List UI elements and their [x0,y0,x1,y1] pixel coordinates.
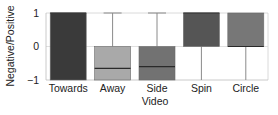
box-iqr [228,13,264,47]
x-axis-label: Video [142,95,169,107]
box-circle [228,13,264,80]
box-iqr [95,47,131,81]
box-plot-chart: −101 TowardsAwaySideSpinCircle Negative/… [0,0,278,115]
y-tick-label: 0 [33,40,39,52]
x-tick-label: Circle [232,82,259,94]
x-tick-label: Towards [49,82,88,94]
x-tick-label: Side [146,82,167,94]
y-tick-label: −1 [27,74,39,86]
y-axis-label: Negative/Positive [4,5,16,86]
y-tick-label: 1 [33,7,39,19]
x-tick-label: Spin [191,82,212,94]
box-iqr [139,47,175,81]
box-series [50,13,264,80]
x-axis: TowardsAwaySideSpinCircle [49,82,260,94]
box-iqr [50,13,86,80]
y-axis: −101 [27,7,39,86]
box-towards [50,13,86,80]
x-tick-label: Away [100,82,126,94]
chart-canvas: −101 TowardsAwaySideSpinCircle Negative/… [0,0,278,115]
box-side [139,13,175,80]
box-away [95,13,131,80]
box-iqr [183,13,219,47]
box-spin [183,13,219,80]
